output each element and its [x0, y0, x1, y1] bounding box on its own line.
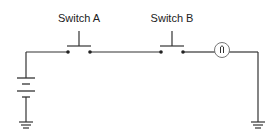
ground-icon-left [19, 122, 33, 128]
battery-icon [17, 78, 35, 122]
lamp-icon [215, 43, 230, 58]
circuit-diagram [0, 0, 274, 138]
switch-a-icon [66, 31, 92, 54]
ground-icon-right [251, 122, 265, 128]
switch-b-icon [159, 31, 185, 54]
